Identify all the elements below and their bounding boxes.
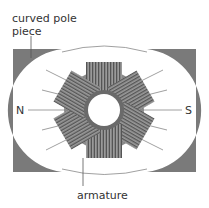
south-label: S — [185, 104, 192, 117]
armature-label: armature — [77, 189, 128, 202]
armature-hole — [88, 94, 120, 126]
north-label: N — [16, 104, 24, 117]
south-pole-piece — [147, 49, 201, 172]
armature — [53, 62, 154, 158]
motor-diagram — [0, 0, 209, 208]
